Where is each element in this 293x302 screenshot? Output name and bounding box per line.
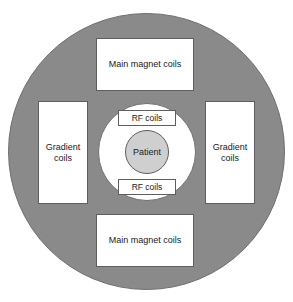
gradient-coils-right: Gradient coils: [205, 101, 255, 204]
rf-coils-bottom-label: RF coils: [130, 182, 165, 192]
rf-coils-top: RF coils: [118, 110, 176, 126]
rf-coils-bottom: RF coils: [118, 179, 176, 195]
patient-region: Patient: [125, 130, 169, 174]
patient-label: Patient: [133, 148, 161, 157]
gradient-coils-left: Gradient coils: [38, 101, 88, 204]
main-magnet-coils-top-label: Main magnet coils: [107, 59, 184, 70]
gradient-coils-right-label: Gradient coils: [206, 142, 254, 164]
mri-scanner-diagram: Main magnet coils Main magnet coils Grad…: [0, 0, 293, 302]
gradient-coils-left-label: Gradient coils: [39, 142, 87, 164]
main-magnet-coils-bottom-label: Main magnet coils: [107, 235, 184, 246]
main-magnet-coils-bottom: Main magnet coils: [96, 214, 194, 267]
rf-coils-top-label: RF coils: [130, 113, 165, 123]
main-magnet-coils-top: Main magnet coils: [96, 38, 194, 91]
